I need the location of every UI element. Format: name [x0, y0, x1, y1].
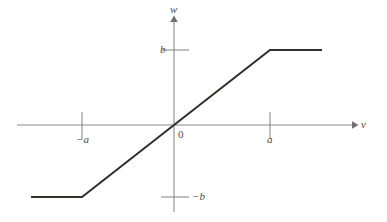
plot-canvas	[0, 0, 387, 222]
saturation-curve	[31, 50, 322, 197]
y-axis-label: w	[170, 4, 177, 15]
origin-label: 0	[178, 129, 184, 140]
x-tick-label-negative: −a	[76, 134, 89, 145]
x-axis-label: v	[361, 119, 366, 130]
y-tick-label-negative: −b	[192, 191, 205, 202]
saturation-curve-figure: w v b −b a −a 0	[0, 0, 387, 222]
x-axis-arrowhead	[352, 121, 359, 129]
y-tick-label-positive: b	[160, 44, 166, 55]
x-tick-label-positive: a	[267, 134, 273, 145]
y-axis-arrowhead	[170, 16, 178, 23]
